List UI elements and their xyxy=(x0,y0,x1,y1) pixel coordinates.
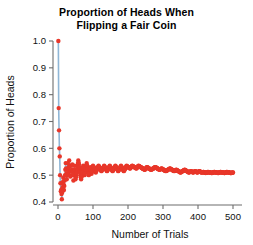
data-point xyxy=(76,160,80,164)
data-point xyxy=(57,146,61,150)
data-points xyxy=(56,39,235,202)
x-axis-label: Number of Trials xyxy=(111,228,188,240)
y-axis-label: Proportion of Heads xyxy=(4,75,16,168)
plot-area: 0.40.50.60.70.80.91.0 0100200300400500 P… xyxy=(0,0,253,245)
y-tick-label: 0.5 xyxy=(33,170,46,181)
data-point xyxy=(57,106,61,110)
data-point xyxy=(230,170,234,174)
x-tick-label: 200 xyxy=(120,211,136,222)
data-point xyxy=(74,175,78,179)
data-point xyxy=(67,158,71,162)
x-tick-label: 300 xyxy=(155,211,171,222)
y-axis: 0.40.50.60.70.80.91.0 xyxy=(33,35,53,207)
x-tick-label: 500 xyxy=(225,211,241,222)
data-point xyxy=(65,177,69,181)
y-tick-label: 0.4 xyxy=(33,196,46,207)
data-point xyxy=(56,39,60,43)
y-tick-label: 0.7 xyxy=(33,116,46,127)
x-tick-label: 400 xyxy=(190,211,206,222)
x-tick-label: 100 xyxy=(85,211,101,222)
x-tick-label: 0 xyxy=(55,211,60,222)
data-point xyxy=(79,175,83,179)
data-point xyxy=(62,188,66,192)
coin-flip-chart: Proportion of Heads When Flipping a Fair… xyxy=(0,0,253,245)
data-point xyxy=(62,184,66,188)
data-point xyxy=(85,163,89,167)
data-point xyxy=(60,197,64,201)
y-tick-label: 0.9 xyxy=(33,62,46,73)
y-tick-label: 1.0 xyxy=(33,35,46,46)
data-point xyxy=(57,128,61,132)
x-axis: 0100200300400500 xyxy=(53,205,242,222)
y-tick-label: 0.6 xyxy=(33,143,46,154)
data-point xyxy=(58,154,62,158)
y-tick-label: 0.8 xyxy=(33,89,46,100)
